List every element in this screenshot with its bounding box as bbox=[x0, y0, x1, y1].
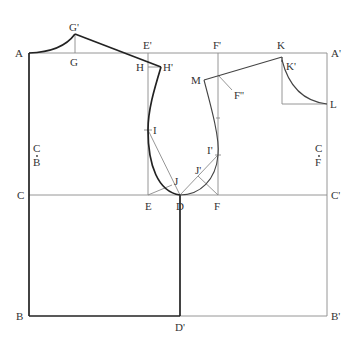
front-armhole-curve bbox=[180, 80, 218, 195]
label-F-prime: F' bbox=[213, 39, 221, 51]
label-L: L bbox=[330, 98, 337, 110]
pattern-draft-diagram: A A' G' G E' F' K K' L H H' M F'' I I' J… bbox=[0, 0, 360, 347]
line-F-double-prime bbox=[218, 75, 232, 90]
center-markers: C B C F bbox=[33, 142, 322, 168]
label-K: K bbox=[277, 39, 285, 51]
label-B-prime: B' bbox=[331, 310, 340, 322]
center-back-label-bottom: B bbox=[33, 156, 40, 168]
label-M: M bbox=[191, 74, 201, 86]
label-H: H bbox=[136, 61, 144, 73]
center-back-label-top: C bbox=[33, 142, 40, 154]
label-C: C bbox=[17, 189, 24, 201]
label-F-double-prime: F'' bbox=[234, 89, 244, 101]
label-G-prime: G' bbox=[69, 21, 79, 33]
label-F: F bbox=[214, 200, 220, 212]
label-G: G bbox=[70, 56, 78, 68]
label-E-prime: E' bbox=[143, 39, 152, 51]
front-shoulder-line bbox=[204, 57, 282, 80]
label-I: I bbox=[153, 124, 157, 136]
back-neckline-curve bbox=[29, 34, 75, 53]
label-E: E bbox=[145, 200, 152, 212]
point-labels: A A' G' G E' F' K K' L H H' M F'' I I' J… bbox=[15, 21, 341, 333]
label-I-prime: I' bbox=[207, 144, 213, 156]
center-front-label-top: C bbox=[315, 142, 322, 154]
center-front-label-bottom: F bbox=[315, 156, 321, 168]
label-B: B bbox=[16, 310, 23, 322]
label-D-prime: D' bbox=[175, 321, 185, 333]
label-K-prime: K' bbox=[286, 60, 296, 72]
label-J: J bbox=[174, 175, 179, 187]
label-A-prime: A' bbox=[331, 47, 341, 59]
label-H-prime: H' bbox=[163, 61, 173, 73]
label-D: D bbox=[176, 200, 184, 212]
line-F-J-prime bbox=[198, 176, 218, 195]
label-A: A bbox=[15, 47, 23, 59]
label-J-prime: J' bbox=[195, 164, 201, 176]
label-C-prime: C' bbox=[331, 189, 340, 201]
